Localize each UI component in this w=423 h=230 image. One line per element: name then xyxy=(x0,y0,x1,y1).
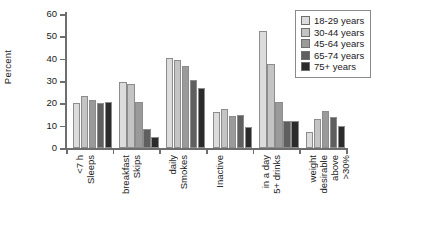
bar xyxy=(322,111,329,148)
legend-swatch xyxy=(301,62,310,71)
y-tick-label: 40 xyxy=(46,54,57,64)
x-category-label-line: weight xyxy=(307,155,318,182)
x-category-label-line: Sleeps xyxy=(85,155,96,184)
x-category-label-line: <7 h xyxy=(74,155,85,174)
legend-swatch xyxy=(301,51,310,60)
bar xyxy=(89,100,96,148)
bar-chart: Percent 0102030405060 Sleeps<7 hSkipsbre… xyxy=(0,0,423,230)
bar xyxy=(338,126,345,148)
y-tick-label: 50 xyxy=(46,32,57,42)
y-tick-label: 0 xyxy=(52,143,57,153)
x-category-label: >30%abovedesirableweight xyxy=(307,155,351,225)
y-axis-title: Percent xyxy=(2,50,13,84)
bar xyxy=(151,137,158,148)
x-category-label-line: above xyxy=(329,155,340,181)
x-tick-mark xyxy=(346,148,348,154)
x-category-label-line: Skips xyxy=(131,155,142,178)
bar xyxy=(127,84,134,148)
legend-swatch xyxy=(301,28,310,37)
bar xyxy=(283,121,290,148)
x-category-label-line: breakfast xyxy=(120,155,131,194)
legend-label: 18-29 years xyxy=(314,15,364,26)
x-category-label-line: daily xyxy=(167,155,178,175)
x-category-label: Inactive xyxy=(214,155,225,225)
bar xyxy=(237,115,244,149)
x-tick-mark xyxy=(66,148,68,154)
bar xyxy=(143,129,150,148)
x-category-label-line: Smokes xyxy=(178,155,189,189)
bar xyxy=(245,127,252,148)
legend-item: 75+ years xyxy=(301,61,364,73)
x-category-label-line: 5+ drinks xyxy=(271,155,282,194)
bar-group xyxy=(73,14,112,148)
bar xyxy=(275,102,282,148)
x-category-label: Skipsbreakfast xyxy=(120,155,142,225)
legend-item: 45-64 years xyxy=(301,38,364,50)
y-tick-label: 10 xyxy=(46,121,57,131)
y-tick-label: 60 xyxy=(46,9,57,19)
bar-group xyxy=(259,14,298,148)
y-tick-mark xyxy=(60,59,67,61)
x-category-label-line: >30% xyxy=(340,155,351,180)
legend-label: 45-64 years xyxy=(314,38,364,49)
y-tick-label: 20 xyxy=(46,99,57,109)
bar xyxy=(182,66,189,148)
bar xyxy=(119,82,126,148)
bar xyxy=(105,102,112,148)
x-category-label-line: Inactive xyxy=(214,155,225,188)
bar xyxy=(306,132,313,148)
bar xyxy=(166,58,173,148)
y-tick-mark xyxy=(60,36,67,38)
y-tick-mark xyxy=(60,81,67,83)
legend: 18-29 years30-44 years45-64 years65-74 y… xyxy=(295,10,371,78)
legend-item: 65-74 years xyxy=(301,50,364,62)
x-category-label: 5+ drinksin a day xyxy=(260,155,282,225)
y-tick-mark xyxy=(60,103,67,105)
bar xyxy=(73,103,80,148)
bar-group xyxy=(166,14,205,148)
bar xyxy=(314,119,321,148)
y-tick-mark xyxy=(60,126,67,128)
bar xyxy=(198,88,205,148)
bar xyxy=(190,80,197,148)
bar xyxy=(135,102,142,148)
bar xyxy=(259,31,266,148)
x-tick-mark xyxy=(113,148,115,154)
legend-label: 75+ years xyxy=(314,61,356,72)
y-tick-mark xyxy=(60,14,67,16)
bar-group xyxy=(119,14,158,148)
legend-swatch xyxy=(301,39,310,48)
bar-group xyxy=(213,14,252,148)
bar xyxy=(213,112,220,148)
bar xyxy=(174,60,181,148)
bar xyxy=(81,96,88,148)
bar xyxy=(330,117,337,148)
legend-label: 30-44 years xyxy=(314,27,364,38)
x-tick-mark xyxy=(206,148,208,154)
legend-item: 18-29 years xyxy=(301,15,364,27)
x-category-label-line: desirable xyxy=(318,155,329,194)
bar xyxy=(221,109,228,148)
bar xyxy=(267,64,274,148)
legend-label: 65-74 years xyxy=(314,50,364,61)
legend-swatch xyxy=(301,16,310,25)
bar xyxy=(291,121,298,148)
x-tick-mark xyxy=(299,148,301,154)
x-tick-mark xyxy=(253,148,255,154)
x-category-label-line: in a day xyxy=(260,155,271,188)
bar xyxy=(229,116,236,148)
x-category-label: Sleeps<7 h xyxy=(74,155,96,225)
x-category-label: Smokesdaily xyxy=(167,155,189,225)
y-tick-label: 30 xyxy=(46,76,57,86)
legend-item: 30-44 years xyxy=(301,27,364,39)
x-tick-mark xyxy=(159,148,161,154)
bar xyxy=(97,103,104,148)
